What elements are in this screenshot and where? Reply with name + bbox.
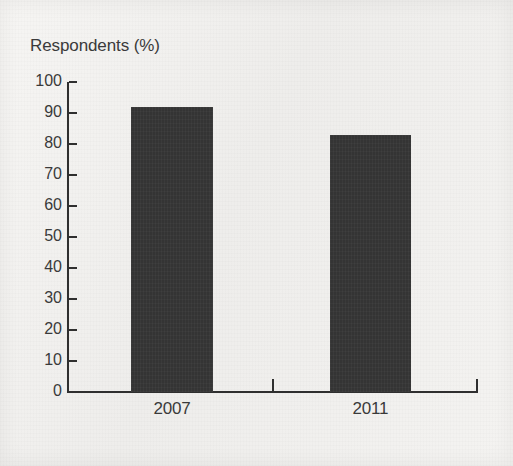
plot-area: 100 90 80 70 60 50 40 30 20 10 0 [0,0,513,466]
bar-texture-2007 [131,107,213,392]
bar-2007[interactable] [131,107,213,392]
y-tick-label-50: 50 [28,228,62,244]
x-axis-label-2011: 2011 [330,399,411,419]
x-tick-mark-middle [272,379,274,392]
bar-2011[interactable] [330,135,411,392]
y-tick-mark-40 [69,267,77,269]
y-tick-label-30: 30 [28,290,62,306]
bar-chart-figure: Respondents (%) 100 90 80 70 60 [0,0,513,466]
y-tick-mark-100 [69,81,77,83]
y-tick-label-0: 0 [28,383,62,399]
y-tick-mark-30 [69,298,77,300]
y-tick-mark-90 [69,112,77,114]
y-tick-label-10: 10 [28,352,62,368]
y-tick-label-100: 100 [28,73,62,89]
y-tick-mark-0 [69,391,77,393]
x-axis-label-2007: 2007 [132,399,212,419]
x-tick-mark-right [476,379,478,392]
y-tick-label-60: 60 [28,197,62,213]
y-tick-mark-20 [69,329,77,331]
x-tick-mark-left [67,379,69,392]
y-tick-mark-10 [69,360,77,362]
y-tick-mark-60 [69,205,77,207]
y-tick-mark-50 [69,236,77,238]
bar-texture-2011 [330,135,411,392]
y-tick-mark-80 [69,143,77,145]
y-tick-mark-70 [69,174,77,176]
y-tick-label-70: 70 [28,166,62,182]
y-tick-label-80: 80 [28,135,62,151]
y-tick-label-40: 40 [28,259,62,275]
y-tick-label-20: 20 [28,321,62,337]
y-tick-label-90: 90 [28,104,62,120]
